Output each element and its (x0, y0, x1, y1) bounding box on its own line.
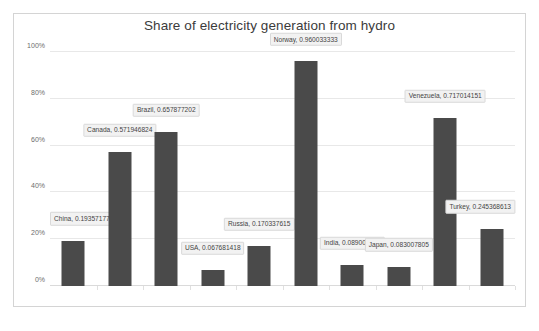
x-axis-tick (236, 286, 237, 290)
y-axis-tick-label: 40% (31, 182, 45, 189)
bar-russia[interactable] (248, 246, 271, 286)
y-axis-tick-label: 100% (27, 42, 45, 49)
data-label-venezuela: Venezuela, 0.717014151 (405, 90, 486, 103)
plot-area: 0%20%40%60%80%100% China, 0.193571776Can… (50, 52, 515, 286)
y-axis-tick-label: 20% (31, 229, 45, 236)
x-axis-tick (283, 286, 284, 290)
data-label-brazil: Brazil, 0.657877202 (133, 104, 200, 117)
x-axis-tick (469, 286, 470, 290)
data-label-japan: Japan, 0.083007805 (365, 238, 433, 251)
data-label-usa: USA, 0.067681418 (181, 242, 245, 255)
bar-norway[interactable] (294, 61, 317, 286)
data-label-russia: Russia, 0.170337615 (224, 218, 294, 231)
bar-usa[interactable] (201, 270, 224, 286)
x-axis-tick (376, 286, 377, 290)
x-axis-tick (422, 286, 423, 290)
x-axis-tick (190, 286, 191, 290)
x-axis-tick (329, 286, 330, 290)
data-label-canada: Canada, 0.571946824 (83, 124, 156, 137)
bar-india[interactable] (341, 265, 364, 286)
bar-brazil[interactable] (155, 132, 178, 286)
bar-turkey[interactable] (480, 229, 503, 286)
y-axis-tick-label: 80% (31, 88, 45, 95)
data-label-turkey: Turkey, 0.245368613 (445, 200, 515, 213)
bar-japan[interactable] (387, 267, 410, 286)
chart-title: Share of electricity generation from hyd… (14, 18, 525, 33)
bar-canada[interactable] (108, 152, 131, 286)
y-axis-tick-label: 0% (35, 276, 45, 283)
gridline (50, 51, 515, 52)
x-axis-tick (143, 286, 144, 290)
bar-china[interactable] (62, 241, 85, 286)
x-axis-tick (97, 286, 98, 290)
data-label-norway: Norway, 0.960033333 (270, 33, 342, 46)
y-axis-tick-label: 60% (31, 135, 45, 142)
chart-container: Share of electricity generation from hyd… (13, 13, 526, 307)
x-axis-tick (515, 286, 516, 290)
